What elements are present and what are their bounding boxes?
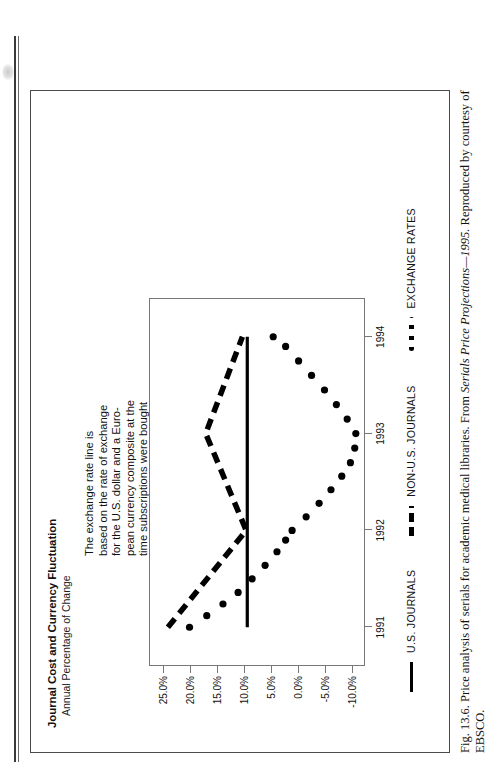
y-axis-tick: [325, 666, 326, 673]
data-point: [344, 415, 351, 422]
data-point: [249, 575, 256, 582]
y-axis-label: 10.0%: [238, 676, 249, 704]
data-point: [289, 527, 296, 534]
y-axis-tick: [190, 666, 191, 673]
y-axis-tick: [271, 666, 272, 673]
legend-label: NON-U.S. JOURNALS: [405, 385, 417, 496]
caption-text-1: Price analysis of serials for academic m…: [458, 396, 472, 702]
chart-series-layer: [149, 298, 365, 666]
data-point: [351, 445, 358, 452]
y-axis-label: 25.0%: [157, 676, 168, 704]
y-axis-label: 20.0%: [184, 676, 195, 704]
data-point: [282, 537, 289, 544]
data-point: [295, 357, 302, 364]
data-point: [262, 562, 269, 569]
y-axis-tick: [163, 666, 164, 673]
chart-subtitle: Annual Percentage of Change: [59, 308, 73, 728]
caption-number: Fig. 13.6.: [458, 705, 472, 753]
chart-plot-area: 25.0%20.0%15.0%10.0%5.0%0.0%-5.0%-10.0% …: [149, 298, 365, 666]
figure-caption: Fig. 13.6. Price analysis of serials for…: [458, 63, 487, 753]
legend-swatch-dotted-icon: [409, 317, 414, 351]
chart-legend: U.S. JOURNALSNON-U.S. JOURNALSEXCHANGE R…: [405, 132, 417, 692]
annotation-line: The exchange rate line is: [83, 306, 97, 556]
series-exchange-rates: [186, 333, 360, 631]
annotation-line: for the U.S. dollar and a Euro-: [110, 306, 124, 556]
annotation-line: based on the rate of exchange: [97, 306, 111, 556]
y-axis-label: 5.0%: [265, 676, 276, 699]
data-point: [347, 459, 354, 466]
x-axis-tick: [365, 433, 372, 434]
y-axis-tick: [352, 666, 353, 673]
y-axis-label: -5.0%: [319, 676, 330, 702]
y-axis-tick: [298, 666, 299, 673]
data-point: [186, 624, 193, 631]
x-axis-label: 1993: [375, 422, 386, 444]
scanned-page: Journal Cost and Currency Fluctuation An…: [0, 0, 487, 780]
data-point: [338, 473, 345, 480]
x-axis-label: 1992: [375, 519, 386, 541]
legend-item: EXCHANGE RATES: [405, 208, 417, 351]
figure-frame: Journal Cost and Currency Fluctuation An…: [30, 90, 450, 753]
legend-swatch-dashed-icon: [409, 506, 414, 536]
y-axis-label: 0.0%: [292, 676, 303, 699]
data-point: [203, 612, 210, 619]
data-point: [308, 372, 315, 379]
x-axis-label: 1994: [375, 326, 386, 348]
series-non-us-journals: [168, 337, 246, 628]
y-axis-label: 15.0%: [211, 676, 222, 704]
x-axis-tick: [365, 626, 372, 627]
x-axis-tick: [365, 336, 372, 337]
chart-title-block: Journal Cost and Currency Fluctuation An…: [45, 308, 73, 728]
legend-item: NON-U.S. JOURNALS: [405, 385, 417, 535]
data-point: [327, 486, 334, 493]
legend-label: EXCHANGE RATES: [405, 208, 417, 308]
legend-label: U.S. JOURNALS: [405, 570, 417, 653]
legend-swatch-solid-icon: [410, 662, 413, 692]
data-point: [282, 343, 289, 350]
data-point: [219, 600, 226, 607]
data-point: [321, 386, 328, 393]
data-point: [316, 500, 323, 507]
caption-source-italic: Serials Price Projections—1995.: [458, 229, 472, 393]
y-axis-tick: [217, 666, 218, 673]
annotation-line: pean currency composite at the: [124, 306, 138, 556]
data-point: [273, 548, 280, 555]
y-axis-label: -10.0%: [346, 676, 357, 708]
y-axis-tick: [244, 666, 245, 673]
data-point: [303, 513, 310, 520]
data-point: [352, 430, 359, 437]
scan-smudge: [2, 64, 14, 80]
page-top-rule: [14, 36, 19, 762]
page-title: Journal Cost and Currency Fluctuation: [45, 308, 59, 728]
data-point: [270, 333, 277, 340]
data-point: [235, 589, 242, 596]
legend-item: U.S. JOURNALS: [405, 570, 417, 692]
x-axis-label: 1991: [375, 616, 386, 638]
data-point: [333, 401, 340, 408]
x-axis-tick: [365, 529, 372, 530]
